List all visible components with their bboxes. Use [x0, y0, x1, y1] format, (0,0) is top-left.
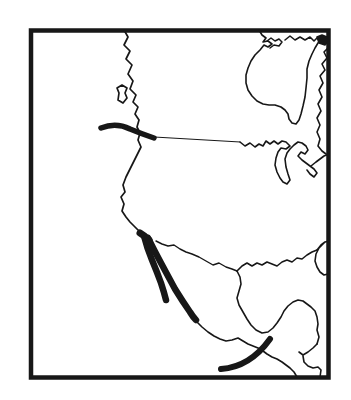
hudson-bay-outline: [246, 30, 321, 124]
map-figure: [0, 0, 351, 400]
rio-grande-border-line: [156, 241, 237, 271]
ridge-to-great-lakes-line: [154, 137, 240, 142]
gulf-of-mexico-north-coast: [237, 250, 317, 271]
gulf-of-california-ridge-east: [148, 238, 196, 320]
middle-america-trench-arc: [221, 339, 270, 369]
map-frame-border: [31, 31, 329, 378]
mexico-pacific-coast: [196, 321, 297, 377]
corner-ink-patch: [317, 35, 329, 45]
west-gulf-and-yucatan-coast: [237, 271, 319, 344]
vancouver-island: [117, 85, 127, 103]
great-lakes-outline: [240, 141, 329, 184]
juan-de-fuca-ridge-segment: [101, 125, 154, 138]
figure-canvas: [0, 0, 351, 400]
arctic-coast: [285, 36, 318, 41]
caribbean-honduras-coast: [299, 344, 321, 377]
